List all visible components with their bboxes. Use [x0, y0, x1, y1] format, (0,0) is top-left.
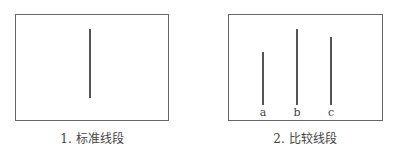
comparison-line-a [262, 52, 264, 105]
line-c-label: c [328, 107, 334, 118]
comparison-lines-panel [228, 14, 383, 121]
line-a-label: a [260, 107, 267, 118]
standard-line-panel [15, 14, 169, 121]
standard-line-segment [89, 29, 91, 98]
comparison-line-b [296, 29, 298, 105]
comparison-line-c [330, 37, 332, 105]
line-b-label: b [293, 107, 300, 118]
comparison-panel-caption: 2. 比较线段 [273, 133, 336, 145]
standard-panel-caption: 1. 标准线段 [60, 133, 123, 145]
